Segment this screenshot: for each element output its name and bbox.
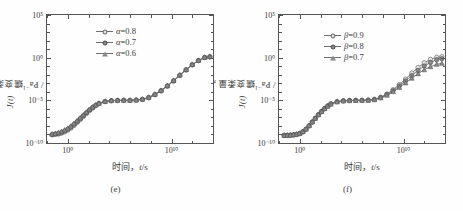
panel-caption-e: (e): [0, 184, 231, 194]
x-tick-label: 10¹⁰: [397, 143, 410, 155]
y-tick-label: 10⁻⁵: [28, 96, 47, 105]
y-tick-minor: [211, 41, 214, 42]
legend-label: β=0.8: [344, 42, 364, 51]
y-tick-minor: [211, 32, 214, 33]
y-tick-minor: [443, 49, 446, 50]
y-tick-minor: [211, 66, 214, 67]
y-tick-minor: [443, 134, 446, 135]
y-tick-major: [209, 100, 213, 101]
y-axis-label-e: 蠕变柔量，J(t) / Pa−1: [2, 20, 16, 150]
x-tick-minor: [445, 15, 446, 18]
x-tick-minor: [192, 15, 193, 18]
x-tick-minor: [362, 15, 363, 18]
x-tick-label: 10¹⁰: [165, 143, 178, 155]
open-circle-marker-icon: [96, 26, 113, 37]
x-tick-label: 10⁰: [294, 143, 305, 155]
y-tick-minor: [443, 117, 446, 118]
x-tick-major: [68, 15, 69, 19]
y-tick-minor: [47, 32, 50, 33]
x-tick-minor: [424, 141, 425, 144]
y-tick-minor: [279, 109, 282, 110]
legend-f: β=0.9 β=0.8 β=0.7: [324, 30, 364, 63]
legend-e: α=0.8 α=0.7 α=0.6: [96, 26, 136, 59]
legend-item: β=0.9: [324, 30, 364, 41]
series-triangle: [50, 54, 213, 136]
y-tick-minor: [443, 126, 446, 127]
x-tick-minor: [89, 15, 90, 18]
y-tick-minor: [211, 117, 214, 118]
y-tick-major: [279, 100, 283, 101]
panel-caption-f: (f): [232, 184, 463, 194]
y-tick-minor: [279, 75, 282, 76]
x-tick-minor: [341, 141, 342, 144]
y-tick-minor: [443, 32, 446, 33]
y-tick-minor: [211, 134, 214, 135]
y-tick-major: [209, 143, 213, 144]
x-tick-major: [172, 15, 173, 19]
y-tick-minor: [443, 66, 446, 67]
y-tick-major: [279, 143, 283, 144]
y-tick-minor: [279, 117, 282, 118]
y-tick-label: 10⁻⁵: [260, 96, 279, 105]
y-tick-minor: [47, 109, 50, 110]
legend-label: α=0.6: [116, 49, 136, 58]
x-tick-minor: [424, 15, 425, 18]
x-tick-minor: [279, 141, 280, 144]
chart-panel-e: 蠕变柔量，J(t) / Pa−1 10⁵10⁰10⁻⁵10⁻¹⁰10⁰10¹⁰ …: [0, 0, 231, 211]
x-tick-major: [404, 15, 405, 19]
x-tick-minor: [47, 141, 48, 144]
x-tick-minor: [321, 15, 322, 18]
y-tick-minor: [279, 126, 282, 127]
x-tick-minor: [151, 15, 152, 18]
y-tick-minor: [47, 134, 50, 135]
y-tick-minor: [211, 126, 214, 127]
y-tick-minor: [211, 109, 214, 110]
y-tick-minor: [279, 66, 282, 67]
data-point: [439, 61, 444, 65]
y-axis-label-f: 蠕变柔量，J(t) / Pa−1: [234, 20, 248, 150]
x-axis-label-e: 时间，t/s: [46, 160, 214, 173]
y-tick-minor: [47, 41, 50, 42]
y-tick-minor: [279, 92, 282, 93]
x-tick-minor: [130, 15, 131, 18]
y-tick-minor: [279, 49, 282, 50]
x-tick-minor: [109, 141, 110, 144]
y-tick-minor: [279, 83, 282, 84]
figure-sheet: 蠕变柔量，J(t) / Pa−1 10⁵10⁰10⁻⁵10⁻¹⁰10⁰10¹⁰ …: [0, 0, 463, 211]
data-point: [422, 67, 427, 71]
x-tick-label: 10⁰: [62, 143, 73, 155]
x-tick-minor: [213, 15, 214, 18]
filled-circle-marker-icon: [96, 37, 113, 48]
y-tick-major: [209, 58, 213, 59]
legend-label: α=0.7: [116, 38, 136, 47]
y-tick-major: [47, 100, 51, 101]
y-tick-minor: [47, 83, 50, 84]
y-tick-label: 10⁰: [32, 53, 47, 62]
y-tick-major: [441, 100, 445, 101]
triangle-marker-icon: [324, 52, 341, 63]
y-tick-minor: [47, 92, 50, 93]
y-tick-minor: [279, 24, 282, 25]
y-tick-minor: [47, 126, 50, 127]
y-tick-minor: [47, 66, 50, 67]
y-tick-major: [47, 143, 51, 144]
y-tick-label: 10⁵: [264, 11, 279, 20]
y-tick-minor: [279, 134, 282, 135]
y-tick-minor: [47, 117, 50, 118]
y-tick-major: [279, 58, 283, 59]
open-circle-marker-icon: [324, 30, 341, 41]
x-tick-minor: [151, 141, 152, 144]
x-tick-minor: [341, 15, 342, 18]
x-tick-minor: [213, 141, 214, 144]
y-tick-label: 10⁵: [32, 11, 47, 20]
y-tick-minor: [279, 32, 282, 33]
y-tick-minor: [443, 83, 446, 84]
x-tick-minor: [362, 141, 363, 144]
y-tick-minor: [279, 41, 282, 42]
y-tick-minor: [443, 41, 446, 42]
x-tick-minor: [445, 141, 446, 144]
x-tick-minor: [89, 141, 90, 144]
x-axis-label-f: 时间，t/s: [278, 160, 446, 173]
x-tick-minor: [321, 141, 322, 144]
y-tick-minor: [47, 24, 50, 25]
